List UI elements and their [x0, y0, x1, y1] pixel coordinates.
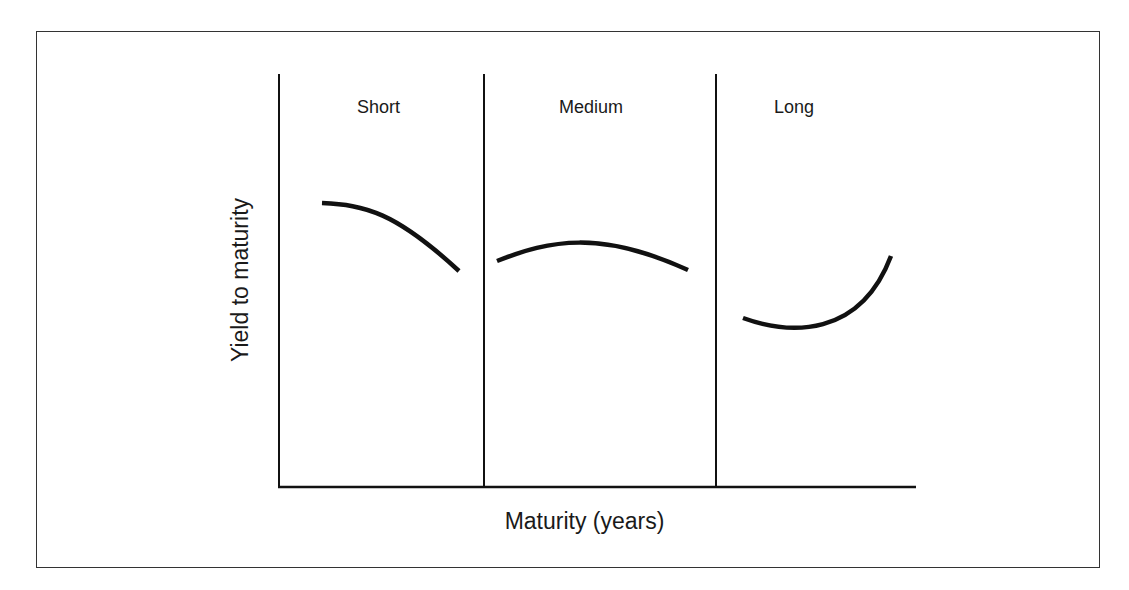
region-label-medium: Medium	[559, 97, 623, 118]
yield-curve-segments-plot	[0, 0, 1129, 590]
short-yield-curve	[322, 203, 459, 271]
x-axis-label: Maturity (years)	[0, 508, 1129, 535]
y-axis-label: Yield to maturity	[227, 198, 254, 362]
region-label-long: Long	[774, 97, 814, 118]
region-label-short: Short	[357, 97, 400, 118]
long-yield-curve	[743, 256, 891, 328]
medium-yield-curve	[497, 243, 688, 270]
